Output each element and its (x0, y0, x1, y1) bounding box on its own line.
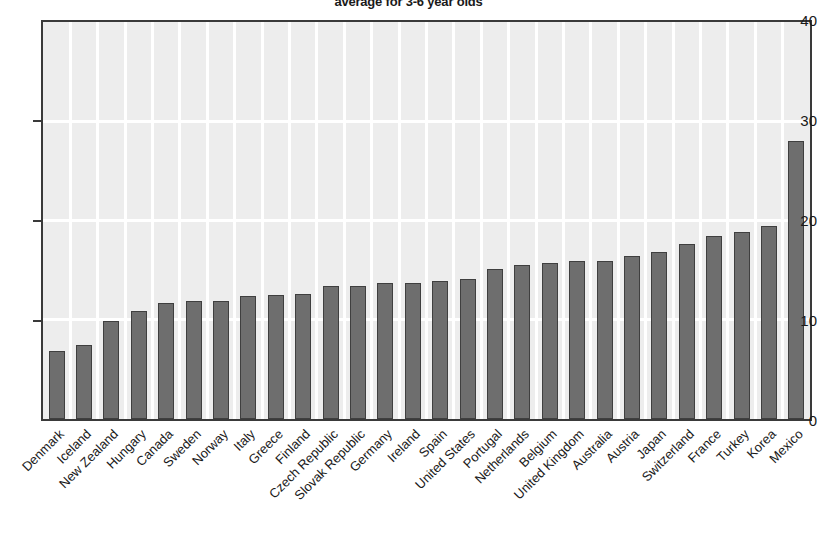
x-axis-labels: DenmarkIcelandNew ZealandHungaryCanadaSw… (41, 421, 812, 544)
bar (706, 236, 722, 419)
bar (103, 321, 119, 419)
bar (679, 244, 695, 419)
bar (377, 283, 393, 419)
bar (323, 286, 339, 419)
bar (131, 311, 147, 419)
chart-root: average for 3-6 year olds 010203040 Denm… (0, 0, 817, 544)
chart-title: average for 3-6 year olds (0, 0, 817, 9)
y-tick-mark (33, 120, 42, 122)
bar (542, 263, 558, 419)
y-tick-label: 10 (783, 313, 817, 328)
plot-area (41, 20, 812, 421)
y-tick-label: 40 (783, 13, 817, 28)
y-tick-label: 20 (783, 213, 817, 228)
y-tick-mark (33, 320, 42, 322)
bar (405, 283, 421, 419)
bar (514, 265, 530, 419)
bar (624, 256, 640, 419)
horizontal-gridline (43, 219, 810, 222)
bar (76, 345, 92, 419)
bar (788, 141, 804, 419)
bar (734, 232, 750, 419)
horizontal-gridline (43, 120, 810, 123)
y-tick-mark (33, 220, 42, 222)
y-tick-label: 30 (783, 113, 817, 128)
bar (569, 261, 585, 419)
bar (432, 281, 448, 419)
bar (350, 286, 366, 419)
bar (213, 301, 229, 419)
bar (487, 269, 503, 419)
bar (597, 261, 613, 419)
bar (295, 294, 311, 419)
bar (268, 295, 284, 419)
bar (186, 301, 202, 419)
bar (460, 279, 476, 419)
bar (240, 296, 256, 419)
bar (158, 303, 174, 419)
bar (49, 351, 65, 419)
bar (761, 226, 777, 419)
bar (651, 252, 667, 419)
plot-inner (43, 22, 810, 419)
